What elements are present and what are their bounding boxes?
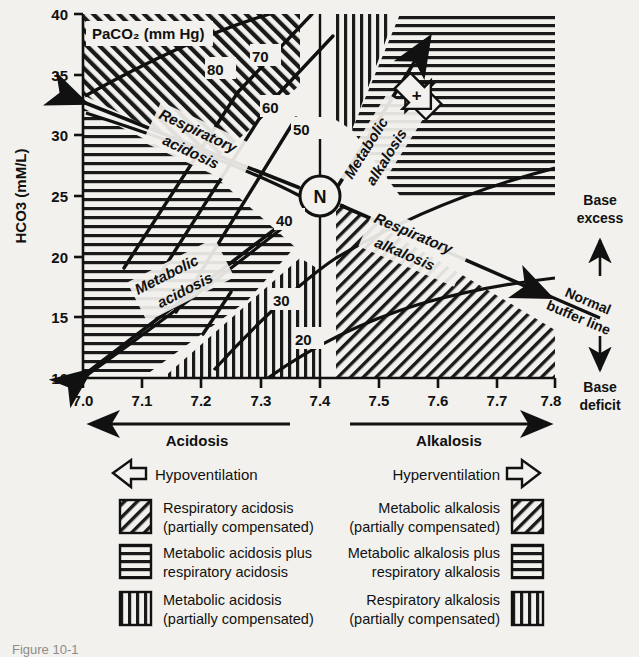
- y-tick-label-35: 35: [51, 67, 68, 84]
- isopleth-label-50: 50: [291, 117, 322, 139]
- base-excess-line2: excess: [577, 210, 624, 226]
- metabolic-arrow-minus-label: −: [383, 57, 393, 76]
- isopleth-label-80: 80: [205, 57, 236, 79]
- legend-swatch-vertical-hatch: [120, 592, 151, 625]
- base-excess-line1: Base: [583, 192, 617, 208]
- x-tick-label-7-2: 7.2: [191, 392, 212, 409]
- x-tick-label-7-4: 7.4: [310, 392, 332, 409]
- base-deficit-line1: Base: [583, 379, 617, 395]
- alkalosis-label: Alkalosis: [416, 432, 482, 449]
- y-tick-label-40: 40: [51, 6, 68, 23]
- isopleth-label-80-text: 80: [207, 61, 224, 78]
- isopleth-label-30: 30: [271, 288, 302, 310]
- isopleth-label-60-text: 60: [262, 99, 279, 116]
- legend-label-metabolic-alkalosis-plus-line1: Metabolic alkalosis plus: [348, 545, 500, 561]
- figure-svg: N PaCO₂ (mm Hg) 80 70 60 50: [0, 0, 639, 657]
- base-deficit-line2: deficit: [579, 397, 621, 413]
- x-tick-label-7-1: 7.1: [132, 392, 153, 409]
- y-tick-label-30: 30: [51, 127, 68, 144]
- legend-label-metabolic-acidosis-line2: (partially compensated): [163, 611, 314, 627]
- legend-label-metabolic-alkalosis-line1: Metabolic alkalosis: [378, 500, 500, 516]
- x-tick-label-7-8: 7.8: [541, 392, 562, 409]
- isopleth-label-40-text: 40: [276, 212, 293, 229]
- acidosis-label: Acidosis: [166, 432, 229, 449]
- normal-point-label: N: [314, 187, 327, 207]
- x-tick-label-7-0: 7.0: [73, 392, 94, 409]
- legend-label-metabolic-acidosis-plus-line1: Metabolic acidosis plus: [163, 545, 312, 561]
- isopleth-label-50-text: 50: [293, 121, 310, 138]
- y-tick-label-20: 20: [51, 249, 68, 266]
- legend-swatch-diagonal-hatch: [120, 500, 151, 533]
- legend-swatch-horizontal-hatch: [120, 545, 151, 578]
- paco2-axis-title: PaCO₂ (mm Hg): [86, 21, 213, 46]
- isopleth-label-70-text: 70: [252, 48, 269, 65]
- legend-swatch-horizontal-hatch-right: [512, 545, 543, 578]
- legend-label-metabolic-alkalosis-line2: (partially compensated): [349, 519, 500, 535]
- isopleth-label-60: 60: [260, 95, 291, 117]
- x-tick-label-7-7: 7.7: [487, 392, 508, 409]
- isopleth-label-70: 70: [250, 44, 281, 66]
- y-tick-label-15: 15: [51, 309, 68, 326]
- legend-label-metabolic-acidosis-line1: Metabolic acidosis: [163, 592, 281, 608]
- legend-swatch-diagonal-hatch-right: [512, 500, 543, 533]
- y-tick-label-25: 25: [51, 188, 68, 205]
- legend-right-column: Metabolic alkalosis (partially compensat…: [348, 500, 543, 627]
- x-tick-label-7-5: 7.5: [369, 392, 390, 409]
- figure-caption: Figure 10-1: [12, 642, 78, 657]
- legend-label-metabolic-acidosis-plus-line2: respiratory acidosis: [163, 564, 288, 580]
- hyperventilation-label: Hyperventilation: [392, 466, 500, 483]
- x-tick-label-7-6: 7.6: [428, 392, 449, 409]
- isopleth-label-20: 20: [293, 327, 324, 349]
- isopleth-label-40: 40: [274, 208, 305, 230]
- y-tick-label-10: 10: [51, 370, 68, 387]
- nomogram-figure: N PaCO₂ (mm Hg) 80 70 60 50: [0, 0, 639, 657]
- x-tick-label-7-3: 7.3: [251, 392, 272, 409]
- legend-label-metabolic-alkalosis-plus-line2: respiratory alkalosis: [372, 564, 500, 580]
- legend-label-respiratory-acidosis-line2: (partially compensated): [163, 519, 314, 535]
- paco2-axis-title-text: PaCO₂ (mm Hg): [92, 25, 205, 42]
- isopleth-label-20-text: 20: [295, 331, 312, 348]
- y-axis-title: HCO3 (mM/L): [12, 149, 29, 244]
- metabolic-arrow-plus-label: +: [412, 86, 422, 105]
- legend-label-respiratory-acidosis-line1: Respiratory acidosis: [163, 500, 294, 516]
- legend-label-respiratory-alkalosis-line1: Respiratory alkalosis: [366, 592, 500, 608]
- legend-swatch-vertical-hatch-right: [512, 592, 543, 625]
- legend-label-respiratory-alkalosis-line2: (partially compensated): [349, 611, 500, 627]
- isopleth-label-30-text: 30: [273, 292, 290, 309]
- hypoventilation-label: Hypoventilation: [155, 466, 258, 483]
